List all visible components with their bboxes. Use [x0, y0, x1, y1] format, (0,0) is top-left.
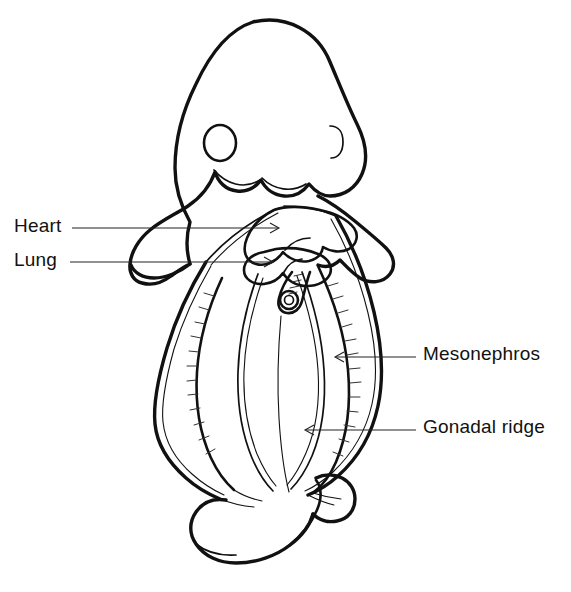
- embryo-drawing: [0, 0, 571, 592]
- thoracic-wall-left-line: [206, 209, 276, 262]
- maxillary-fold-line: [262, 178, 306, 189]
- anatomical-figure: Heart Lung Mesonephros Gonadal ridge: [0, 0, 571, 592]
- label-lung: Lung: [14, 250, 57, 269]
- mesonephros-ridge-left-outline: [197, 278, 234, 490]
- label-mesonephros: Mesonephros: [423, 344, 540, 363]
- eye-icon: [204, 125, 236, 161]
- gonadal-ridge-left-outline: [238, 274, 273, 491]
- hindlimb-bud-outline: [191, 500, 313, 564]
- gonadal-ridge-left-outline-2: [244, 278, 276, 486]
- thoracic-wall-left-line-2: [211, 213, 278, 265]
- forelimb-bud-left-outline: [131, 264, 190, 278]
- ridge-convergence-line-1: [234, 490, 262, 501]
- label-gonadal-ridge: Gonadal ridge: [423, 417, 545, 436]
- body-wall-right-outline: [308, 216, 381, 495]
- umbilical-lumen-inner: [285, 296, 294, 305]
- ridge-convergence-line-4: [313, 493, 341, 499]
- head-outline: [130, 20, 366, 284]
- midline-groove: [278, 316, 289, 492]
- label-heart: Heart: [14, 216, 61, 235]
- otic-vesicle-outline: [330, 126, 343, 158]
